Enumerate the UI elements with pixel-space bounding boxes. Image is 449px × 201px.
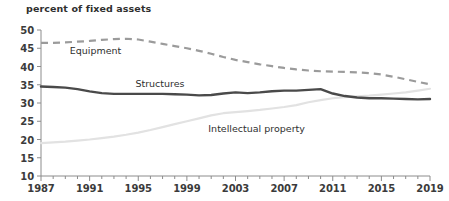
x-tick-label-1987: 1987 — [21, 183, 61, 194]
y-tick-label-25: 25 — [10, 116, 34, 127]
x-tick-marks — [41, 176, 430, 181]
y-tick-label-35: 35 — [10, 79, 34, 90]
y-tick-label-40: 40 — [10, 61, 34, 72]
y-tick-label-20: 20 — [10, 134, 34, 145]
chart-container: percent of fixed assets 5045403530252015… — [0, 0, 449, 201]
x-tick-label-2007: 2007 — [264, 183, 304, 194]
x-tick-label-1999: 1999 — [167, 183, 207, 194]
series-line-structures — [41, 87, 430, 100]
x-tick-label-2011: 2011 — [313, 183, 353, 194]
series-line-intellectual-property — [41, 89, 430, 143]
chart-plot-area — [0, 0, 449, 201]
intellectual-property-label: Intellectual property — [206, 123, 307, 134]
y-tick-label-30: 30 — [10, 98, 34, 109]
structures-label: Structures — [133, 78, 186, 89]
y-tick-label-50: 50 — [10, 25, 34, 36]
y-tick-label-10: 10 — [10, 171, 34, 182]
x-tick-label-1995: 1995 — [118, 183, 158, 194]
x-tick-label-1991: 1991 — [70, 183, 110, 194]
equipment-label: Equipment — [68, 45, 124, 56]
x-tick-label-2015: 2015 — [361, 183, 401, 194]
y-tick-label-15: 15 — [10, 152, 34, 163]
y-tick-marks — [37, 30, 41, 176]
y-tick-label-45: 45 — [10, 43, 34, 54]
x-tick-label-2003: 2003 — [216, 183, 256, 194]
x-tick-label-2019: 2019 — [410, 183, 449, 194]
